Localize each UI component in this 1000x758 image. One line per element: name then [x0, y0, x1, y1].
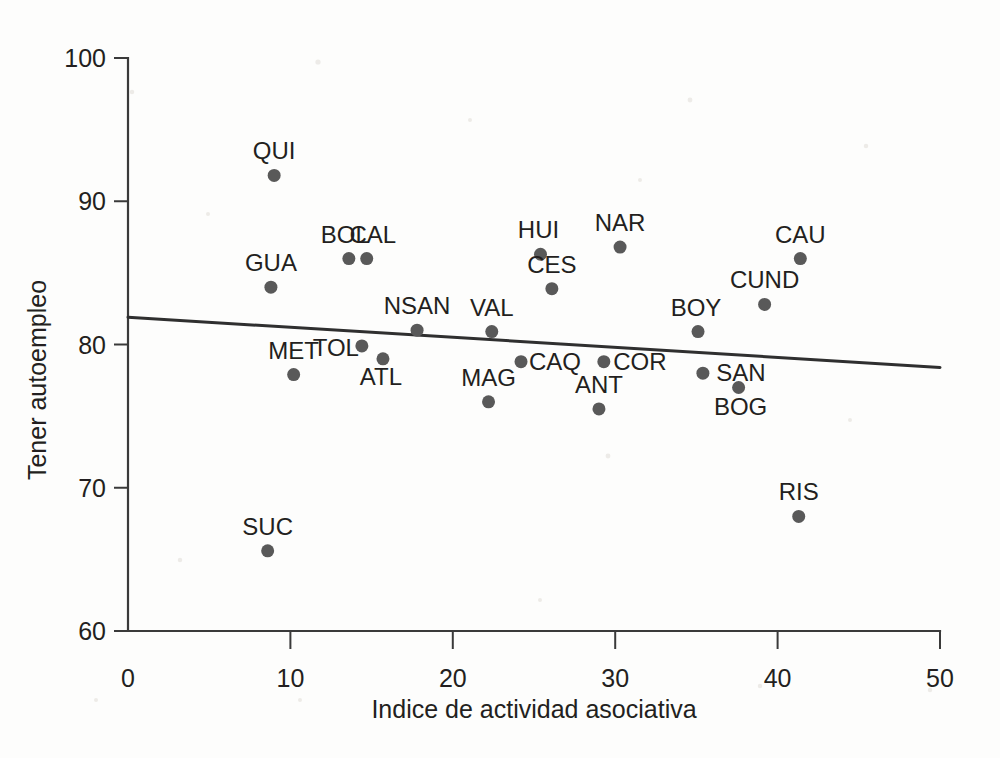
x-tick-label: 20 [439, 664, 467, 692]
data-point-cal[interactable] [360, 252, 373, 265]
data-point-cund[interactable] [758, 298, 771, 311]
data-point-ant[interactable] [592, 402, 605, 415]
x-tick-label: 40 [764, 664, 792, 692]
data-point-label-tol: TOL [313, 334, 359, 361]
y-axis-ticks [114, 58, 128, 631]
data-point-met[interactable] [287, 368, 300, 381]
data-point-label-ris: RIS [779, 478, 819, 505]
plot-canvas: 60708090100 01020304050 QUIGUABOLCALMETT… [0, 0, 1000, 758]
data-point-qui[interactable] [268, 169, 281, 182]
data-point-val[interactable] [485, 325, 498, 338]
data-point-nsan[interactable] [411, 324, 424, 337]
data-point-label-bog: BOG [714, 393, 767, 420]
y-tick-label: 60 [78, 617, 106, 645]
data-point-bol[interactable] [342, 252, 355, 265]
data-point-label-mag: MAG [461, 364, 516, 391]
data-point-label-boy: BOY [671, 294, 722, 321]
x-axis-tick-labels: 01020304050 [121, 664, 954, 692]
data-point-label-ces: CES [527, 251, 576, 278]
data-point-nar[interactable] [614, 241, 627, 254]
y-tick-label: 100 [64, 44, 106, 72]
data-point-label-gua: GUA [245, 249, 297, 276]
data-point-cor[interactable] [597, 355, 610, 368]
data-point-label-caq: CAQ [529, 348, 581, 375]
x-tick-label: 10 [276, 664, 304, 692]
data-point-label-met: MET [268, 337, 319, 364]
data-point-label-hui: HUI [518, 216, 559, 243]
y-axis-title: Tener autoempleo [23, 280, 51, 480]
y-axis-tick-labels: 60708090100 [64, 44, 106, 645]
x-tick-label: 0 [121, 664, 135, 692]
data-point-mag[interactable] [482, 395, 495, 408]
data-point-labels-layer: QUIGUABOLCALMETTOLATLNSANVALMAGCAQHUICES… [242, 137, 825, 539]
data-point-label-atl: ATL [360, 363, 402, 390]
data-point-label-san: SAN [716, 359, 765, 386]
data-point-gua[interactable] [264, 281, 277, 294]
data-point-ris[interactable] [792, 510, 805, 523]
data-point-cau[interactable] [794, 252, 807, 265]
x-axis-ticks [290, 631, 940, 649]
scatter-plot-figure: 60708090100 01020304050 QUIGUABOLCALMETT… [0, 0, 1000, 758]
data-point-label-suc: SUC [242, 513, 293, 540]
data-point-label-val: VAL [470, 294, 514, 321]
data-point-suc[interactable] [261, 544, 274, 557]
data-point-label-cund: CUND [730, 266, 799, 293]
x-axis-title: Indice de actividad asociativa [371, 695, 696, 723]
x-tick-label: 30 [601, 664, 629, 692]
data-point-label-nsan: NSAN [384, 292, 451, 319]
y-tick-label: 80 [78, 331, 106, 359]
x-tick-label: 50 [926, 664, 954, 692]
data-point-label-cau: CAU [775, 221, 826, 248]
data-point-caq[interactable] [515, 355, 528, 368]
y-tick-label: 70 [78, 474, 106, 502]
data-point-label-ant: ANT [575, 371, 623, 398]
data-point-label-cal: CAL [349, 221, 396, 248]
data-point-ces[interactable] [545, 282, 558, 295]
plot-axes [128, 58, 940, 631]
y-tick-label: 90 [78, 187, 106, 215]
data-point-san[interactable] [696, 367, 709, 380]
data-point-boy[interactable] [692, 325, 705, 338]
data-point-label-qui: QUI [253, 137, 296, 164]
data-point-label-nar: NAR [595, 209, 646, 236]
